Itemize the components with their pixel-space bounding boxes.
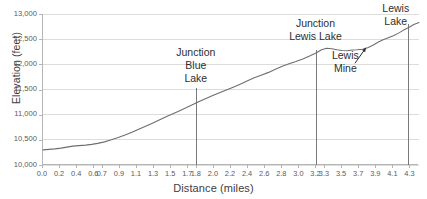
x-tick-mark <box>341 165 342 168</box>
plot-area <box>42 14 418 165</box>
x-tick-mark <box>298 165 299 168</box>
x-tick-mark <box>324 165 325 168</box>
x-tick-mark <box>281 165 282 168</box>
y-tick-label: 12,500 <box>14 34 37 43</box>
x-tick-label: 4.3 <box>404 169 414 178</box>
x-tick-mark <box>76 165 77 168</box>
x-tick-mark <box>136 165 137 168</box>
x-tick-label: 0.4 <box>71 169 81 178</box>
x-tick-label: 3.3 <box>319 169 329 178</box>
x-tick-label: 3.5 <box>336 169 346 178</box>
y-tick-label: 10,500 <box>14 134 37 143</box>
x-tick-label: 0.9 <box>114 169 124 178</box>
x-tick-mark <box>59 165 60 168</box>
x-tick-mark <box>93 165 94 168</box>
x-tick-mark <box>264 165 265 168</box>
x-tick-mark <box>42 165 43 168</box>
x-tick-label: 2.0 <box>208 169 218 178</box>
x-tick-mark <box>153 165 154 168</box>
y-tick-label: 13,000 <box>14 9 37 18</box>
x-tick-label: 3.0 <box>293 169 303 178</box>
elevation-profile-chart: Elevation (feet) 13,00012,50012,00011,50… <box>0 0 427 199</box>
x-tick-label: 2.4 <box>242 169 252 178</box>
y-tick-label: 11,500 <box>14 84 37 93</box>
y-tick-label: 12,000 <box>14 59 37 68</box>
x-tick-label: 2.2 <box>225 169 235 178</box>
elevation-line <box>43 23 419 150</box>
x-tick-label: 2.8 <box>276 169 286 178</box>
plot-svg <box>43 14 419 165</box>
y-tick-label: 11,000 <box>14 109 37 118</box>
gridlines <box>43 14 419 165</box>
x-tick-label: 2.6 <box>259 169 269 178</box>
series-elevation-profile <box>43 23 419 150</box>
x-tick-label: 1.1 <box>131 169 141 178</box>
x-tick-mark <box>315 165 316 168</box>
x-tick-label: 4.1 <box>387 169 397 178</box>
x-tick-label: 3.9 <box>370 169 380 178</box>
x-tick-mark <box>119 165 120 168</box>
x-tick-mark <box>102 165 103 168</box>
x-tick-mark <box>375 165 376 168</box>
x-tick-mark <box>409 165 410 168</box>
x-tick-label: 0.7 <box>97 169 107 178</box>
x-tick-label: 1.5 <box>165 169 175 178</box>
x-tick-label: 0.2 <box>54 169 64 178</box>
x-tick-mark <box>213 165 214 168</box>
x-tick-mark <box>247 165 248 168</box>
x-tick-label: 1.3 <box>148 169 158 178</box>
x-tick-mark <box>170 165 171 168</box>
x-tick-label: 1.8 <box>191 169 201 178</box>
x-tick-mark <box>230 165 231 168</box>
x-tick-mark <box>187 165 188 168</box>
x-axis-title: Distance (miles) <box>0 182 427 194</box>
x-tick-mark <box>358 165 359 168</box>
x-tick-mark <box>196 165 197 168</box>
x-tick-label: 0.0 <box>37 169 47 178</box>
marker-lines <box>197 24 409 165</box>
x-tick-label: 3.7 <box>353 169 363 178</box>
x-tick-mark <box>392 165 393 168</box>
